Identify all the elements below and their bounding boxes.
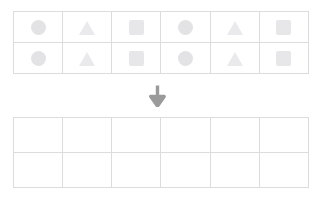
arrow-region (0, 82, 315, 110)
target-empty-grid-cell-r1c3[interactable] (112, 118, 161, 153)
triangle-icon (227, 21, 243, 35)
source-shape-grid-cell-r1c2 (63, 12, 112, 43)
target-row-1 (14, 118, 309, 153)
worksheet-canvas (0, 0, 315, 197)
source-shape-grid (13, 11, 309, 74)
source-shape-grid-cell-r1c1 (14, 12, 63, 43)
target-empty-grid-cell-r1c1[interactable] (14, 118, 63, 153)
target-empty-grid-cell-r2c3[interactable] (112, 153, 161, 188)
circle-icon (31, 20, 46, 35)
source-shape-grid-cell-r2c2 (63, 43, 112, 74)
target-empty-grid (13, 117, 309, 188)
source-row-2 (14, 43, 309, 74)
target-grid-body (14, 118, 309, 188)
triangle-icon (79, 21, 95, 35)
source-grid-body (14, 12, 309, 74)
source-shape-grid-cell-r1c6 (259, 12, 308, 43)
target-empty-grid-cell-r1c6[interactable] (259, 118, 308, 153)
target-empty-grid-cell-r1c4[interactable] (161, 118, 210, 153)
source-row-1 (14, 12, 309, 43)
target-empty-grid-cell-r2c6[interactable] (259, 153, 308, 188)
source-shape-grid-cell-r2c3 (112, 43, 161, 74)
source-shape-grid-cell-r2c5 (210, 43, 259, 74)
source-shape-grid-cell-r1c5 (210, 12, 259, 43)
square-icon (129, 51, 144, 66)
circle-icon (178, 51, 193, 66)
target-empty-grid-cell-r2c4[interactable] (161, 153, 210, 188)
target-empty-grid-cell-r1c5[interactable] (210, 118, 259, 153)
source-shape-grid-cell-r2c6 (259, 43, 308, 74)
target-row-2 (14, 153, 309, 188)
down-arrow-icon (149, 85, 166, 107)
triangle-icon (227, 52, 243, 66)
circle-icon (31, 51, 46, 66)
target-empty-grid-cell-r2c2[interactable] (63, 153, 112, 188)
source-shape-grid-cell-r2c4 (161, 43, 210, 74)
target-empty-grid-cell-r2c5[interactable] (210, 153, 259, 188)
square-icon (129, 20, 144, 35)
source-shape-grid-cell-r1c4 (161, 12, 210, 43)
target-empty-grid-cell-r2c1[interactable] (14, 153, 63, 188)
circle-icon (178, 20, 193, 35)
source-shape-grid-cell-r2c1 (14, 43, 63, 74)
square-icon (276, 20, 291, 35)
source-shape-grid-cell-r1c3 (112, 12, 161, 43)
square-icon (276, 51, 291, 66)
target-empty-grid-cell-r1c2[interactable] (63, 118, 112, 153)
triangle-icon (79, 52, 95, 66)
